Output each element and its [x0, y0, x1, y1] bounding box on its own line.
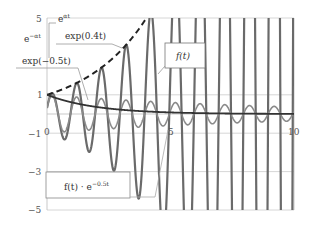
y-tick-neg3: −3 — [28, 167, 42, 177]
label-f-t: f(t) — [175, 51, 190, 61]
chart: 5 1 −1 −3 −5 0 5 10 eαt e−αt exp(0.4t) e… — [0, 0, 314, 226]
y-tick-5: 5 — [36, 14, 42, 24]
y-tick-neg1: −1 — [28, 129, 41, 139]
label-exp-neg-0.5t: exp(−0.5t) — [22, 56, 71, 66]
label-exp-0.4t: exp(0.4t) — [65, 31, 106, 41]
x-tick-5: 5 — [168, 127, 174, 137]
y-tick-1: 1 — [37, 90, 43, 100]
label-e-alpha-t: eαt — [58, 12, 70, 24]
label-e-neg-alpha-t: e−αt — [24, 32, 41, 44]
y-tick-neg5: −5 — [28, 205, 42, 215]
x-tick-10: 10 — [288, 127, 300, 137]
x-tick-0: 0 — [44, 127, 50, 137]
